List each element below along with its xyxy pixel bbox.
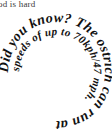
spiral-text-graphic: Did you know? The ostrich can run at spe…: [0, 14, 112, 129]
clipped-body-text: od is hard: [0, 0, 36, 10]
spiral-svg: Did you know? The ostrich can run at spe…: [0, 14, 112, 129]
page-canvas: od is hard Did you know? The ostrich can…: [0, 0, 112, 129]
